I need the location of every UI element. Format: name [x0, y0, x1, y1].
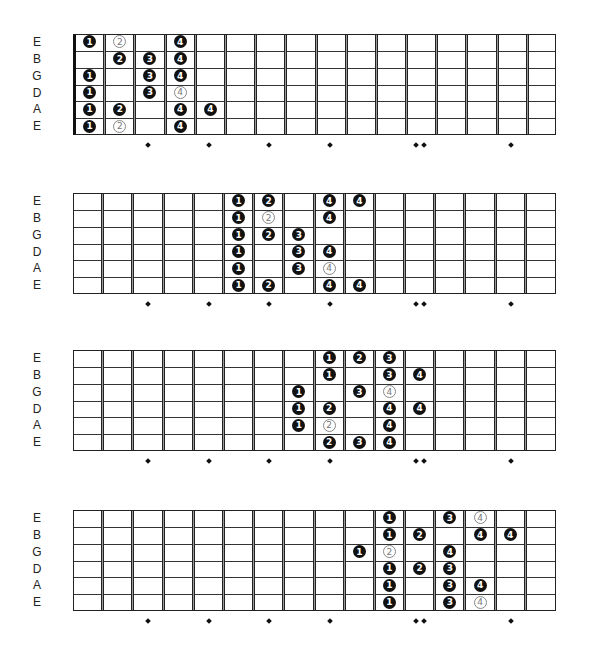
finger-dot: 3 — [143, 69, 156, 82]
finger-dot: 1 — [292, 385, 305, 398]
string-label: E — [30, 34, 44, 51]
finger-dot-outline: 4 — [383, 385, 396, 398]
string-label: G — [30, 384, 44, 401]
string-label: E — [30, 193, 44, 210]
fret-line — [373, 194, 376, 293]
fret-line — [345, 35, 348, 134]
string-label: B — [30, 527, 44, 544]
finger-dot: 4 — [174, 52, 187, 65]
fret-marker-icon — [327, 301, 333, 307]
fret-line — [162, 351, 165, 450]
string-label: E — [30, 594, 44, 611]
fret-marker-icon — [508, 618, 514, 624]
finger-dot: 1 — [83, 120, 96, 133]
fret-marker-icon — [508, 458, 514, 464]
fret-line — [496, 35, 499, 134]
string-label: E — [30, 510, 44, 527]
fret-line — [252, 351, 255, 450]
fret-line — [463, 194, 466, 293]
finger-dot: 3 — [292, 245, 305, 258]
fret-line — [101, 351, 104, 450]
fretboard-grid: 1242341341341244124 — [73, 34, 556, 135]
fret-line — [403, 511, 406, 610]
finger-dot: 1 — [232, 228, 245, 241]
fret-line — [192, 351, 195, 450]
finger-dot: 2 — [413, 528, 426, 541]
finger-dot-outline: 4 — [323, 262, 336, 275]
string-label: G — [30, 544, 44, 561]
fret-line — [373, 351, 376, 450]
fret-line — [463, 511, 466, 610]
fret-line — [494, 351, 497, 450]
fret-marker-icon — [327, 142, 333, 148]
fret-line — [524, 194, 527, 293]
fret-marker-icon — [146, 618, 152, 624]
finger-dot: 4 — [504, 528, 517, 541]
fret-marker-icon — [206, 458, 212, 464]
fret-marker-icon — [413, 618, 419, 624]
string-label: E — [30, 350, 44, 367]
fret-line — [164, 35, 167, 134]
finger-dot: 1 — [292, 419, 305, 432]
finger-dot: 4 — [383, 402, 396, 415]
fret-line — [405, 35, 408, 134]
finger-dot: 4 — [174, 69, 187, 82]
fret-line — [463, 351, 466, 450]
finger-dot: 4 — [174, 103, 187, 116]
string-label: E — [30, 118, 44, 135]
fret-line — [343, 351, 346, 450]
fret-line — [131, 511, 134, 610]
fret-line — [284, 35, 287, 134]
string-label: D — [30, 561, 44, 578]
fret-marker-icon — [146, 142, 152, 148]
string-label: B — [30, 210, 44, 227]
fret-marker-icon — [206, 618, 212, 624]
string-label: B — [30, 367, 44, 384]
fret-marker-icon — [508, 142, 514, 148]
fret-marker-icon — [508, 301, 514, 307]
fret-marker-icon — [421, 301, 427, 307]
finger-dot: 1 — [83, 86, 96, 99]
fret-marker-icon — [413, 142, 419, 148]
fret-line — [252, 194, 255, 293]
finger-dot: 2 — [262, 279, 275, 292]
string-label: E — [30, 434, 44, 451]
fret-line — [465, 35, 468, 134]
string-label: D — [30, 401, 44, 418]
fret-marker-icon — [421, 142, 427, 148]
fret-line — [315, 35, 318, 134]
fret-line — [373, 511, 376, 610]
fret-line — [494, 511, 497, 610]
fret-marker-icon — [421, 618, 427, 624]
fret-line — [162, 194, 165, 293]
finger-dot: 4 — [323, 279, 336, 292]
string-label: A — [30, 101, 44, 118]
string-label: D — [30, 85, 44, 102]
fret-line — [192, 511, 195, 610]
string-label: G — [30, 68, 44, 85]
fret-line — [433, 351, 436, 450]
string-label: B — [30, 51, 44, 68]
fret-line — [194, 35, 197, 134]
finger-dot: 4 — [174, 120, 187, 133]
fret-line — [343, 511, 346, 610]
finger-dot: 3 — [383, 368, 396, 381]
fret-line — [224, 35, 227, 134]
string-label: G — [30, 227, 44, 244]
fret-marker-icon — [266, 458, 272, 464]
finger-dot: 4 — [443, 545, 456, 558]
finger-dot-outline: 2 — [383, 545, 396, 558]
finger-dot: 1 — [232, 279, 245, 292]
finger-dot: 1 — [383, 511, 396, 524]
fret-marker-icon — [206, 301, 212, 307]
finger-dot: 1 — [383, 596, 396, 609]
finger-dot: 1 — [232, 262, 245, 275]
fret-line — [403, 351, 406, 450]
finger-dot-outline: 2 — [262, 211, 275, 224]
fret-line — [282, 351, 285, 450]
finger-dot-outline: 2 — [323, 419, 336, 432]
string-label: A — [30, 260, 44, 277]
string-label: D — [30, 244, 44, 261]
finger-dot: 4 — [474, 528, 487, 541]
fret-line — [313, 511, 316, 610]
